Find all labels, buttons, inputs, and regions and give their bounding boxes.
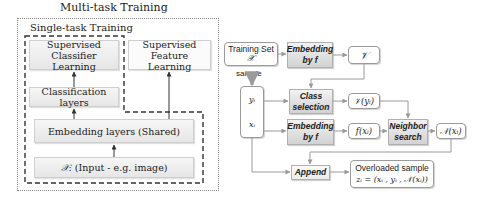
connector-lines (0, 0, 484, 199)
single-task-boundary (25, 36, 203, 183)
